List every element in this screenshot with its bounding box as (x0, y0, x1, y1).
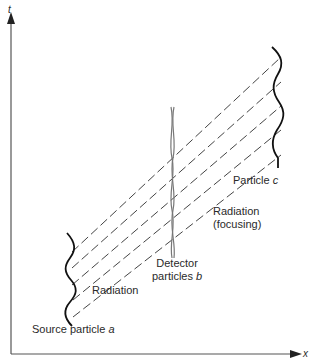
x-axis-label: x (303, 347, 308, 360)
source-particle-worldline (65, 233, 75, 326)
radiation-label: Radiation (92, 284, 138, 297)
focusing-label-line1: Radiation (213, 205, 261, 218)
source-particle-label: Source particle a (32, 323, 115, 336)
particle-c-label: Particle c (233, 174, 278, 187)
detector-label-var: b (196, 270, 202, 282)
detector-label-line2: particles (152, 270, 196, 282)
t-axis-label: t (8, 3, 11, 16)
focusing-label: Radiation (focusing) (213, 205, 261, 231)
focusing-label-line2: (focusing) (213, 218, 261, 231)
source-label-var: a (108, 323, 114, 335)
particle-c-worldline (272, 47, 283, 168)
particle-c-label-var: c (273, 174, 279, 186)
particle-c-label-text: Particle (233, 174, 273, 186)
x-axis-arrow-icon (290, 350, 302, 358)
detector-label: Detector particles b (152, 257, 202, 283)
source-label-text: Source particle (32, 323, 108, 335)
detector-label-line1: Detector (152, 257, 202, 270)
